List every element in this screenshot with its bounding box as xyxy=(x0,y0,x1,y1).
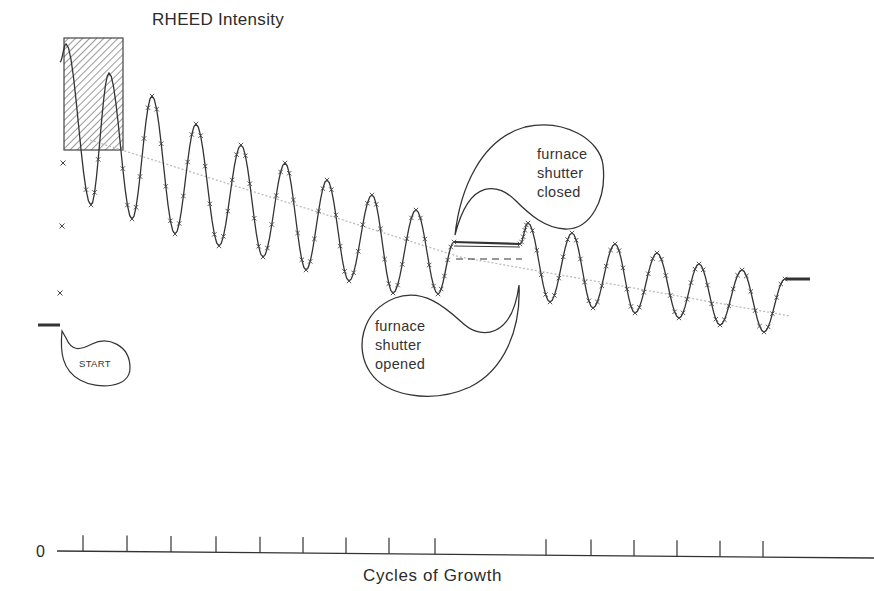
closed-line-3: closed xyxy=(537,183,587,202)
x-axis-label: Cycles of Growth xyxy=(363,566,502,586)
opened-line-1: furnace xyxy=(375,317,425,336)
closed-label: furnace shutter closed xyxy=(537,145,587,202)
opened-line-3: opened xyxy=(375,355,425,374)
closed-line-2: shutter xyxy=(537,164,587,183)
closed-line-1: furnace xyxy=(537,145,587,164)
rheed-chart xyxy=(0,0,874,591)
chart-title: RHEED Intensity xyxy=(152,10,284,30)
opened-line-2: shutter xyxy=(375,336,425,355)
x-axis xyxy=(57,535,874,558)
y-origin-label: 0 xyxy=(36,543,45,561)
opened-label: furnace shutter opened xyxy=(375,317,425,374)
start-label: START xyxy=(79,358,111,369)
intensity-curve xyxy=(38,44,810,332)
